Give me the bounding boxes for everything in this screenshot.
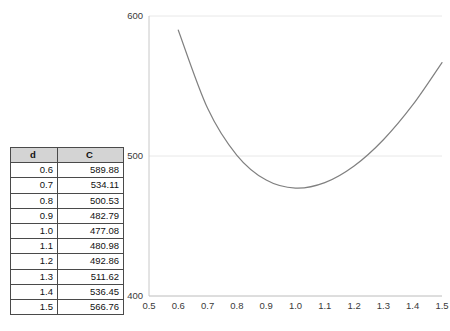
table-cell-d: 0.6	[11, 163, 58, 178]
table-row: 1.5566.76	[11, 300, 124, 315]
table-cell-d: 0.7	[11, 178, 58, 193]
table-header-row: d C	[11, 148, 124, 163]
x-axis-tick-label: 1.5	[427, 300, 450, 311]
y-axis-tick-label: 600	[103, 10, 143, 21]
table-cell-d: 1.4	[11, 284, 58, 299]
x-axis-tick-label: 1.3	[368, 300, 398, 311]
table-row: 0.7534.11	[11, 178, 124, 193]
x-axis-tick-label: 0.9	[251, 300, 281, 311]
table-row: 0.8500.53	[11, 193, 124, 208]
table-cell-c: 492.86	[58, 254, 124, 269]
table-cell-d: 1.0	[11, 224, 58, 239]
table-row: 1.0477.08	[11, 224, 124, 239]
x-axis-tick-label: 0.6	[163, 300, 193, 311]
x-axis-tick-label: 1.1	[310, 300, 340, 311]
table-cell-d: 0.8	[11, 193, 58, 208]
table-header-cell-c: C	[58, 148, 124, 163]
table-row: 1.1480.98	[11, 239, 124, 254]
x-axis-tick-label: 0.8	[222, 300, 252, 311]
x-axis-tick-label: 1.4	[398, 300, 428, 311]
table-row: 1.2492.86	[11, 254, 124, 269]
table-cell-c: 482.79	[58, 208, 124, 223]
x-axis-tick-label: 0.7	[193, 300, 223, 311]
cost-table: d C 0.6589.880.7534.110.8500.530.9482.79…	[10, 147, 124, 315]
table-cell-d: 1.5	[11, 300, 58, 315]
table-cell-c: 511.62	[58, 269, 124, 284]
table-row: 1.4536.45	[11, 284, 124, 299]
table-cell-d: 1.2	[11, 254, 58, 269]
table-cell-d: 1.1	[11, 239, 58, 254]
table-cell-c: 480.98	[58, 239, 124, 254]
table-row: 0.9482.79	[11, 208, 124, 223]
table-cell-d: 0.9	[11, 208, 58, 223]
table-row: 0.6589.88	[11, 163, 124, 178]
table-cell-c: 500.53	[58, 193, 124, 208]
table-cell-c: 536.45	[58, 284, 124, 299]
table-header-cell-d: d	[11, 148, 58, 163]
x-axis-tick-label: 1.0	[281, 300, 311, 311]
x-axis-tick-label: 1.2	[339, 300, 369, 311]
table-cell-c: 566.76	[58, 300, 124, 315]
x-axis-tick-label: 0.5	[134, 300, 164, 311]
table-cell-c: 534.11	[58, 178, 124, 193]
table-cell-c: 477.08	[58, 224, 124, 239]
table-row: 1.3511.62	[11, 269, 124, 284]
table-cell-c: 589.88	[58, 163, 124, 178]
data-series-line	[178, 30, 442, 188]
table-cell-d: 1.3	[11, 269, 58, 284]
